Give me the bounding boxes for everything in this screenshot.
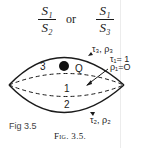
- inner-rho-label: ρ₁=O: [110, 62, 130, 72]
- point-q-dot: [59, 61, 69, 71]
- lower-surface-label: τ₂, ρ₂: [90, 115, 111, 125]
- handwritten-caption: Fig 3.5: [9, 121, 37, 131]
- arrow-head: [86, 80, 92, 86]
- upper-surface-label: τ₃, ρ₃: [92, 44, 113, 54]
- region-1-label: 1: [64, 84, 70, 94]
- region-3-label: 3: [40, 62, 46, 72]
- region-2-label: 2: [64, 100, 70, 110]
- point-q-label: Q: [75, 64, 83, 74]
- upper-surface: [9, 58, 124, 86]
- figure-caption: Fig. 3.5.: [54, 131, 86, 141]
